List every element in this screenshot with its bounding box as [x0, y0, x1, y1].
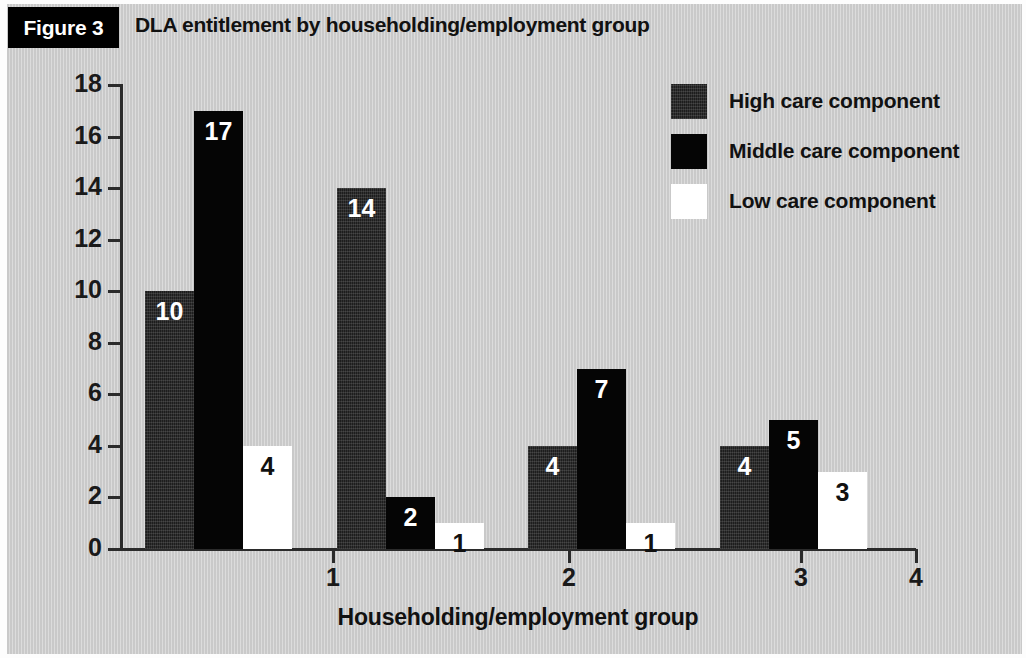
y-axis-line [120, 84, 123, 551]
y-axis-tick-label: 14 [52, 172, 102, 201]
bar-value-label: 1 [626, 531, 675, 556]
y-axis-tick [108, 496, 121, 499]
bar-high-group-3: 4 [528, 446, 577, 549]
y-axis-tick-label: 8 [52, 327, 102, 356]
bar-low-group-2: 1 [435, 523, 484, 549]
x-axis-tick [800, 549, 803, 563]
bar-high-group-1: 10 [145, 291, 194, 549]
bar-high-group-4: 4 [720, 446, 769, 549]
bar-low-group-3: 1 [626, 523, 675, 549]
x-axis-tick-label: 3 [781, 563, 821, 592]
bar-value-label: 5 [769, 428, 818, 453]
y-axis-tick-label: 10 [52, 275, 102, 304]
x-axis-tick [568, 549, 571, 563]
bar-high-group-2: 14 [337, 188, 386, 549]
bar-value-label: 7 [577, 377, 626, 402]
legend-item-middle: Middle care component [671, 132, 959, 170]
y-axis-tick [108, 342, 121, 345]
x-axis-tick [332, 549, 335, 563]
x-axis-tick [915, 549, 918, 563]
legend-swatch-high-icon [671, 84, 707, 119]
y-axis-tick-label: 0 [52, 533, 102, 562]
y-axis-tick-label: 2 [52, 481, 102, 510]
bar-value-label: 4 [720, 454, 769, 479]
y-axis-tick-label: 16 [52, 121, 102, 150]
bar-value-label: 14 [337, 196, 386, 221]
bar-low-group-4: 3 [818, 472, 867, 549]
legend-item-high: High care component [671, 82, 959, 120]
bar-value-label: 4 [528, 454, 577, 479]
x-axis-tick-label: 1 [313, 563, 353, 592]
bar-value-label: 17 [194, 119, 243, 144]
bar-value-label: 4 [243, 454, 292, 479]
y-axis-tick-label: 12 [52, 224, 102, 253]
bar-middle-group-2: 2 [386, 497, 435, 549]
legend-item-low: Low care component [671, 182, 959, 220]
y-axis-tick [108, 84, 121, 87]
y-axis-tick-label: 6 [52, 378, 102, 407]
bar-value-label: 2 [386, 505, 435, 530]
y-axis-tick [108, 290, 121, 293]
legend-label: Low care component [729, 189, 935, 213]
bar-value-label: 1 [435, 531, 484, 556]
bar-middle-group-3: 7 [577, 369, 626, 549]
bar-value-label: 3 [818, 480, 867, 505]
x-axis-tick-label: 2 [549, 563, 589, 592]
y-axis-tick [108, 445, 121, 448]
y-axis-tick [108, 393, 121, 396]
bar-middle-group-4: 5 [769, 420, 818, 549]
chart-legend: High care componentMiddle care component… [671, 82, 959, 232]
legend-swatch-middle-icon [671, 134, 707, 169]
y-axis-tick [108, 239, 121, 242]
y-axis-tick [108, 548, 121, 551]
x-axis-tick-label: 4 [896, 563, 936, 592]
bar-low-group-1: 4 [243, 446, 292, 549]
y-axis-tick [108, 136, 121, 139]
y-axis-tick-label: 4 [52, 430, 102, 459]
legend-label: Middle care component [729, 139, 959, 163]
legend-swatch-low-icon [671, 184, 707, 219]
y-axis-tick-label: 18 [52, 69, 102, 98]
x-axis-title: Householding/employment group [120, 604, 916, 631]
y-axis-tick [108, 187, 121, 190]
bar-value-label: 10 [145, 299, 194, 324]
legend-label: High care component [729, 89, 940, 113]
figure-container: Figure 3 DLA entitlement by householding… [0, 0, 1026, 658]
bar-middle-group-1: 17 [194, 111, 243, 549]
